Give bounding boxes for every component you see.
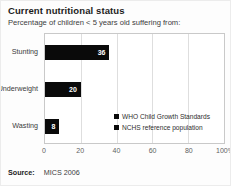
category-label: Wasting xyxy=(12,121,38,131)
x-tick-label: 40 xyxy=(112,147,120,154)
x-tick-label: 20 xyxy=(76,147,84,154)
bar-value-label: 36 xyxy=(98,49,106,56)
legend-item: WHO Child Growth Standards xyxy=(114,111,226,121)
source-value: MICS 2006 xyxy=(44,168,80,177)
chart-card: Current nutritional status Percentage of… xyxy=(0,0,231,186)
category-label: Underweight xyxy=(0,84,38,94)
plot-area: 36208 WHO Child Growth StandardsNCHS ref… xyxy=(44,33,225,144)
legend-label: WHO Child Growth Standards xyxy=(122,113,210,120)
bar: 8 xyxy=(45,119,59,134)
category-axis-labels: StuntingUnderweightWasting xyxy=(1,33,41,144)
x-tick-label: 100% xyxy=(216,147,231,154)
chart-subtitle: Percentage of children < 5 years old suf… xyxy=(8,18,180,27)
category-label: Stunting xyxy=(12,47,38,57)
source-label: Source: xyxy=(8,168,35,177)
chart-title: Current nutritional status xyxy=(8,5,125,16)
bar: 20 xyxy=(45,82,81,97)
x-tick-label: 80 xyxy=(185,147,193,154)
x-axis-tick-labels: 020406080100% xyxy=(44,147,225,157)
source-line: Source:MICS 2006 xyxy=(8,168,80,177)
bar: 36 xyxy=(45,45,109,60)
x-tick-label: 0 xyxy=(42,147,46,154)
legend-swatch-icon xyxy=(114,114,119,119)
legend-label: NCHS reference population xyxy=(122,124,203,131)
bar-value-label: 20 xyxy=(69,86,77,93)
legend-swatch-icon xyxy=(114,125,119,130)
legend: WHO Child Growth StandardsNCHS reference… xyxy=(114,111,226,133)
x-tick-label: 60 xyxy=(149,147,157,154)
legend-item: NCHS reference population xyxy=(114,122,226,132)
bar-value-label: 8 xyxy=(51,123,55,130)
